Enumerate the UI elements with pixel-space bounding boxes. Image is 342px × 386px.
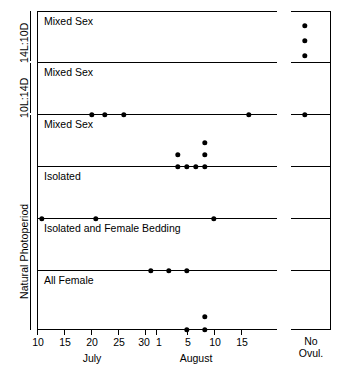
x-axis-month-july: July [83,352,102,364]
x-tick-label: 30 [138,336,150,348]
y-group-spine-10L14D [30,63,31,113]
y-axis-title-natural-photoperiod: Natural Photoperiod [18,204,30,299]
x-tick-label: 10 [209,336,221,348]
x-tick-label: 20 [86,336,98,348]
row-label-2: Mixed Sex [44,118,93,130]
plot-band-row-2: Mixed Sex [37,115,277,167]
plot-band-row-0: Mixed Sex [37,11,277,63]
data-point [302,38,307,43]
row-label-1: Mixed Sex [44,66,93,78]
no-ovulation-panel [291,11,331,330]
x-tick-label: 1 [156,336,162,348]
x-tick [145,330,146,335]
no-ovulation-band-row-4 [291,219,331,271]
no-ovulation-panel-label: No Ovul. [291,336,331,359]
plot-band-row-5: All Female [37,271,277,330]
data-point [202,152,207,157]
row-label-0: Mixed Sex [44,15,93,27]
no-ovulation-band-row-2 [291,115,331,167]
y-axis-group-label-10L14D: 10L:14D [18,78,30,118]
data-point [202,314,207,319]
x-tick [156,330,157,335]
x-tick [64,330,65,335]
no-ovulation-band-row-3 [291,167,331,219]
data-point [202,327,207,332]
x-tick-label: 15 [59,336,71,348]
x-tick [91,330,92,335]
row-label-5: All Female [44,274,94,286]
data-point [302,23,307,28]
plot-band-row-1: Mixed Sex [37,63,277,115]
data-point [175,152,180,157]
x-tick-label: 5 [185,336,191,348]
y-group-spine-natural [30,115,31,330]
x-tick-label: 25 [113,336,125,348]
data-point [302,53,307,58]
no-ovulation-band-row-1 [291,63,331,115]
y-axis-group-label-14L10D: 14L:10D [18,23,30,63]
y-group-spine-14L10D [30,11,31,61]
x-axis-month-august: August [180,352,213,364]
x-tick-label: 15 [236,336,248,348]
x-tick [241,330,242,335]
x-tick [187,330,188,335]
plot-band-row-4: Isolated and Female Bedding [37,219,277,271]
x-tick [118,330,119,335]
plot-band-row-3: Isolated [37,167,277,219]
x-tick [214,330,215,335]
no-ovulation-band-row-5 [291,271,331,330]
row-label-4: Isolated and Female Bedding [44,222,181,234]
x-tick [37,330,38,335]
row-label-3: Isolated [44,170,81,182]
data-point [202,140,207,145]
x-tick-label: 10 [32,336,44,348]
ovulation-timing-figure: 14L:10D 10L:14D Natural Photoperiod Mixe… [0,0,342,386]
no-ovulation-band-row-0 [291,11,331,63]
main-plot-panel: Mixed Sex Mixed Sex Mixed Sex Isolated [37,11,277,330]
